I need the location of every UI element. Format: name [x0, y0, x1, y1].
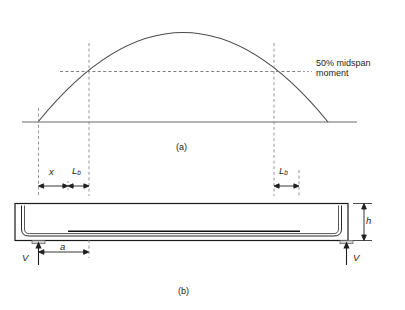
caption-b: (b): [178, 286, 189, 296]
dim-label-lb-right: Lb: [279, 166, 288, 177]
dim-h-arrow-bottom: [362, 235, 367, 241]
dim-label-h: h: [366, 216, 371, 227]
diagram-canvas: [0, 0, 405, 310]
dim-lb-right-arrow-right: [294, 184, 299, 188]
dim-lb-left-arrow-right: [84, 184, 89, 188]
reaction-label-right: V: [353, 253, 359, 264]
dim-label-lb-right-sub: b: [284, 169, 288, 176]
bending-moment-curve: [38, 33, 328, 123]
dim-a-arrow-left: [39, 250, 44, 255]
beam-elevation-group: [15, 204, 372, 266]
reaction-label-left: V: [22, 253, 28, 264]
legend-line-1: 50% midspan: [316, 58, 371, 68]
beam-outline: [15, 204, 348, 241]
dim-label-a: a: [60, 242, 65, 253]
caption-a: (a): [176, 142, 187, 152]
dim-a-arrow-right: [84, 250, 89, 255]
dim-x-arrow-left: [39, 184, 44, 188]
legend-line-2: moment: [316, 68, 371, 78]
dim-h-arrow-top: [362, 204, 367, 210]
dim-lb-right-arrow-left: [274, 184, 279, 188]
dim-label-lb-left-sub: b: [77, 169, 81, 176]
figure-container: 50% midspan moment (a) (b) x Lb Lb a h V…: [0, 0, 405, 310]
dim-label-x: x: [49, 167, 54, 178]
legend-fifty-percent-moment: 50% midspan moment: [316, 58, 371, 78]
dim-label-lb-left: Lb: [72, 166, 81, 177]
dim-lb-left-arrow-left: [68, 184, 73, 188]
